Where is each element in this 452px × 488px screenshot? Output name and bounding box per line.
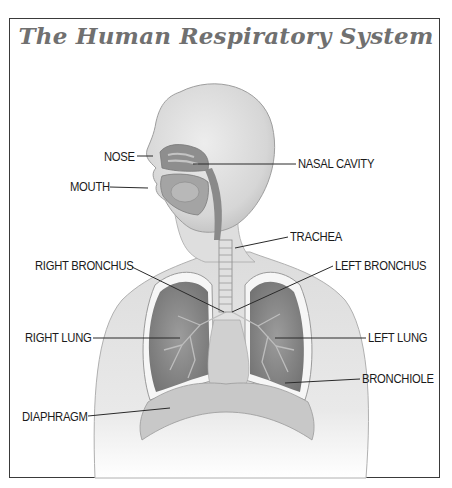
label-nose: NOSE: [104, 150, 135, 164]
label-nasal-cavity: NASAL CAVITY: [298, 157, 374, 171]
leader-line-mouth: [110, 187, 148, 188]
head-shape: [147, 84, 275, 240]
label-right-lung: RIGHT LUNG: [25, 331, 91, 345]
label-bronchiole: BRONCHIOLE: [362, 372, 434, 386]
label-trachea: TRACHEA: [290, 230, 342, 244]
label-mouth: MOUTH: [70, 180, 110, 194]
label-right-bronchus: RIGHT BRONCHUS: [35, 259, 134, 273]
label-diaphragm: DIAPHRAGM: [22, 410, 88, 424]
leader-line-trachea: [235, 237, 288, 248]
lungs-shape: [143, 240, 312, 400]
label-left-lung: LEFT LUNG: [368, 331, 427, 345]
label-left-bronchus: LEFT BRONCHUS: [335, 259, 426, 273]
